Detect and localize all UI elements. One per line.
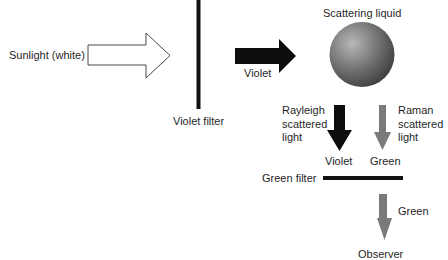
raman-label: Raman scattered light — [398, 104, 448, 145]
scattering-liquid-label: Scattering liquid — [323, 7, 401, 20]
violet-beam-label: Violet — [244, 67, 271, 80]
green-filter-bar — [323, 176, 403, 180]
scattering-liquid-sphere — [330, 22, 395, 87]
green-filter-label: Green filter — [262, 172, 316, 185]
green-output-label: Green — [398, 205, 429, 218]
violet-filter-bar — [197, 0, 201, 109]
rayleigh-color-label: Violet — [325, 155, 352, 168]
sunlight-hollow-arrow-icon — [88, 33, 170, 78]
green-output-arrow-icon — [377, 194, 392, 240]
rayleigh-label: Rayleigh scattered light — [282, 104, 342, 145]
violet-filter-label: Violet filter — [173, 115, 224, 128]
raman-color-label: Green — [370, 155, 401, 168]
raman-arrow-icon — [374, 105, 391, 150]
observer-label: Observer — [358, 248, 403, 260]
sunlight-label: Sunlight (white) — [9, 49, 85, 62]
